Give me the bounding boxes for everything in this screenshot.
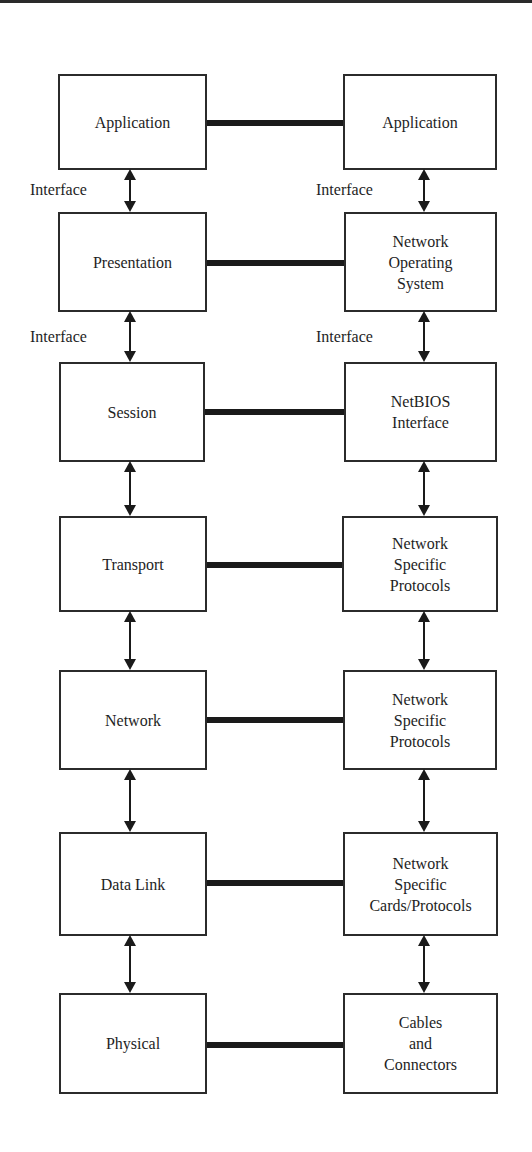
- top-rule: [0, 0, 532, 3]
- left-layer-data-link: Data Link: [59, 832, 207, 936]
- layer-label: Network Specific Cards/Protocols: [369, 853, 471, 916]
- left-layer-network: Network: [59, 670, 207, 770]
- left-layer-application: Application: [58, 74, 207, 170]
- right-layer-network-operating-system: Network Operating System: [344, 212, 497, 312]
- peer-link-2: [207, 260, 349, 266]
- left-layer-physical: Physical: [59, 993, 207, 1094]
- interface-label: Interface: [30, 181, 87, 199]
- layer-label: Cables and Connectors: [384, 1012, 457, 1075]
- layer-label: Application: [95, 112, 171, 133]
- interface-label: Interface: [30, 328, 87, 346]
- bidirectional-arrow-icon: [123, 935, 137, 993]
- interface-label: Interface: [316, 181, 373, 199]
- bidirectional-arrow-icon: [417, 611, 431, 670]
- layer-label: Physical: [106, 1033, 160, 1054]
- right-layer-cables-and-connectors: Cables and Connectors: [343, 993, 498, 1094]
- interface-label: Interface: [316, 328, 373, 346]
- peer-link-4: [207, 562, 349, 568]
- layer-label: Presentation: [93, 252, 172, 273]
- right-layer-application: Application: [343, 74, 497, 170]
- layer-label: Transport: [102, 554, 164, 575]
- layer-label: Data Link: [101, 874, 165, 895]
- bidirectional-arrow-icon: [123, 169, 137, 212]
- layer-label: Network: [105, 710, 161, 731]
- bidirectional-arrow-icon: [417, 769, 431, 832]
- bidirectional-arrow-icon: [417, 461, 431, 516]
- peer-link-3: [205, 409, 349, 415]
- layer-label: Session: [108, 402, 157, 423]
- bidirectional-arrow-icon: [123, 311, 137, 362]
- layer-label: Network Specific Protocols: [390, 533, 450, 596]
- right-layer-network-specific-cards-protocols: Network Specific Cards/Protocols: [343, 832, 498, 936]
- right-layer-network-specific-protocols-1: Network Specific Protocols: [342, 516, 498, 612]
- peer-link-5: [207, 717, 349, 723]
- left-layer-presentation: Presentation: [58, 212, 207, 312]
- bidirectional-arrow-icon: [123, 461, 137, 516]
- left-layer-session: Session: [59, 362, 205, 462]
- left-layer-transport: Transport: [59, 516, 207, 612]
- bidirectional-arrow-icon: [417, 311, 431, 362]
- layer-label: Network Specific Protocols: [390, 689, 450, 752]
- peer-link-1: [207, 120, 349, 126]
- bidirectional-arrow-icon: [417, 169, 431, 212]
- peer-link-6: [207, 880, 349, 886]
- layer-label: NetBIOS Interface: [391, 391, 451, 433]
- peer-link-7: [207, 1042, 349, 1048]
- right-layer-network-specific-protocols-2: Network Specific Protocols: [343, 670, 497, 770]
- bidirectional-arrow-icon: [123, 611, 137, 670]
- bidirectional-arrow-icon: [123, 769, 137, 832]
- right-layer-netbios-interface: NetBIOS Interface: [344, 362, 497, 462]
- layer-label: Application: [382, 112, 458, 133]
- bidirectional-arrow-icon: [417, 935, 431, 993]
- layer-label: Network Operating System: [389, 231, 453, 294]
